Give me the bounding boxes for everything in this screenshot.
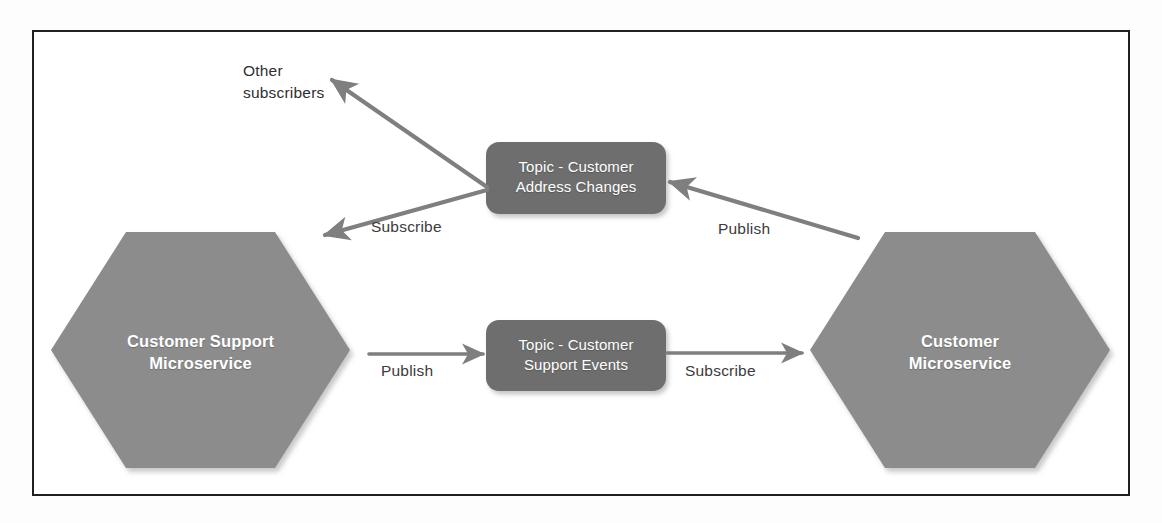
connector-address-topic-to-other-subscribers[interactable] <box>332 80 487 187</box>
node-topic-customer-support-events[interactable] <box>486 320 666 391</box>
diagram-vector-layer <box>0 0 1162 523</box>
edge-label-publish-address-topic: Publish <box>718 220 770 238</box>
node-customer-microservice[interactable] <box>810 232 1110 468</box>
node-topic-customer-address-changes[interactable] <box>486 142 666 214</box>
text-other-subscribers: Other subscribers <box>243 60 324 105</box>
edge-label-subscribe-support-topic: Subscribe <box>685 362 756 380</box>
edge-label-publish-support-topic: Publish <box>381 362 433 380</box>
text-line-1: Other <box>243 60 324 82</box>
node-customer-support-microservice[interactable] <box>51 232 350 468</box>
diagram-canvas: Customer Support Microservice Customer M… <box>0 0 1162 523</box>
edge-label-subscribe-address-topic: Subscribe <box>371 218 442 236</box>
text-line-2: subscribers <box>243 82 324 104</box>
